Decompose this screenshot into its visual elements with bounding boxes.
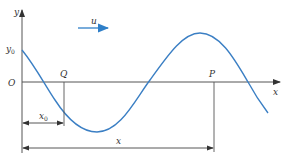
point-q-label: Q bbox=[60, 69, 68, 79]
x-distance-label: x bbox=[116, 136, 121, 146]
y0-label: y0 bbox=[5, 44, 15, 55]
point-p-label: P bbox=[208, 69, 216, 79]
x-axis-label: x bbox=[273, 87, 278, 97]
x0-label: x0 bbox=[39, 111, 48, 122]
velocity-label: u bbox=[91, 16, 97, 26]
wave-diagram: y x O y0 Q P u x0 x bbox=[0, 0, 283, 166]
y-axis-label: y bbox=[13, 7, 20, 17]
origin-label: O bbox=[8, 78, 16, 88]
